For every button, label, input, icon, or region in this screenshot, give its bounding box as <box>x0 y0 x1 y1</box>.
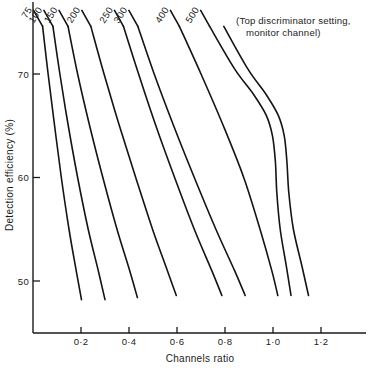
x-tick-label: 0·6 <box>170 336 185 347</box>
x-tick-group: 0·20·40·60·81·01·2 <box>74 327 329 347</box>
detection-efficiency-chart: 0·20·40·60·81·01·2 506070 75100150200250… <box>0 0 368 368</box>
x-tick-label: 0·2 <box>74 336 89 347</box>
data-curve-250 <box>123 26 221 295</box>
axes-group <box>33 2 366 333</box>
curve-label-500: 500 <box>183 5 201 25</box>
y-tick-group: 506070 <box>18 69 40 287</box>
data-curve-100 <box>53 26 105 299</box>
x-tick-label: 1·0 <box>266 336 281 347</box>
data-curve-400 <box>179 26 277 295</box>
x-tick-label: 1·2 <box>314 336 329 347</box>
curve-label-150: 150 <box>41 5 59 25</box>
y-tick-label: 60 <box>18 172 29 183</box>
data-curve-200 <box>91 26 176 295</box>
curve-label-200: 200 <box>64 5 82 25</box>
annotation-line-2: monitor channel) <box>246 27 321 38</box>
x-tick-label: 0·4 <box>122 336 137 347</box>
data-curve-500-upper-branch <box>224 26 309 295</box>
x-tick-label: 0·8 <box>218 336 233 347</box>
curve-label-400: 400 <box>153 5 171 25</box>
y-tick-label: 50 <box>18 276 29 287</box>
x-axis-title: Channels ratio <box>166 353 235 364</box>
curves-group <box>34 10 309 299</box>
curve-leader-400 <box>170 10 179 26</box>
y-tick-label: 70 <box>18 69 29 80</box>
curve-label-300: 300 <box>111 5 129 25</box>
chart-figure: 0·20·40·60·81·01·2 506070 75100150200250… <box>0 0 368 368</box>
y-axis-title: Detection efficiency (%) <box>4 119 15 231</box>
curve-leader-200 <box>82 10 91 26</box>
data-curve-500 <box>210 26 291 295</box>
annotation-line-1: (Top discriminator setting, <box>236 15 351 26</box>
curve-labels-group: 75100150200250300400500 <box>19 5 201 25</box>
curve-leader-500 <box>201 10 210 26</box>
data-curve-300 <box>138 26 245 295</box>
curve-leader-300 <box>129 10 138 26</box>
curve-label-250: 250 <box>97 5 115 25</box>
